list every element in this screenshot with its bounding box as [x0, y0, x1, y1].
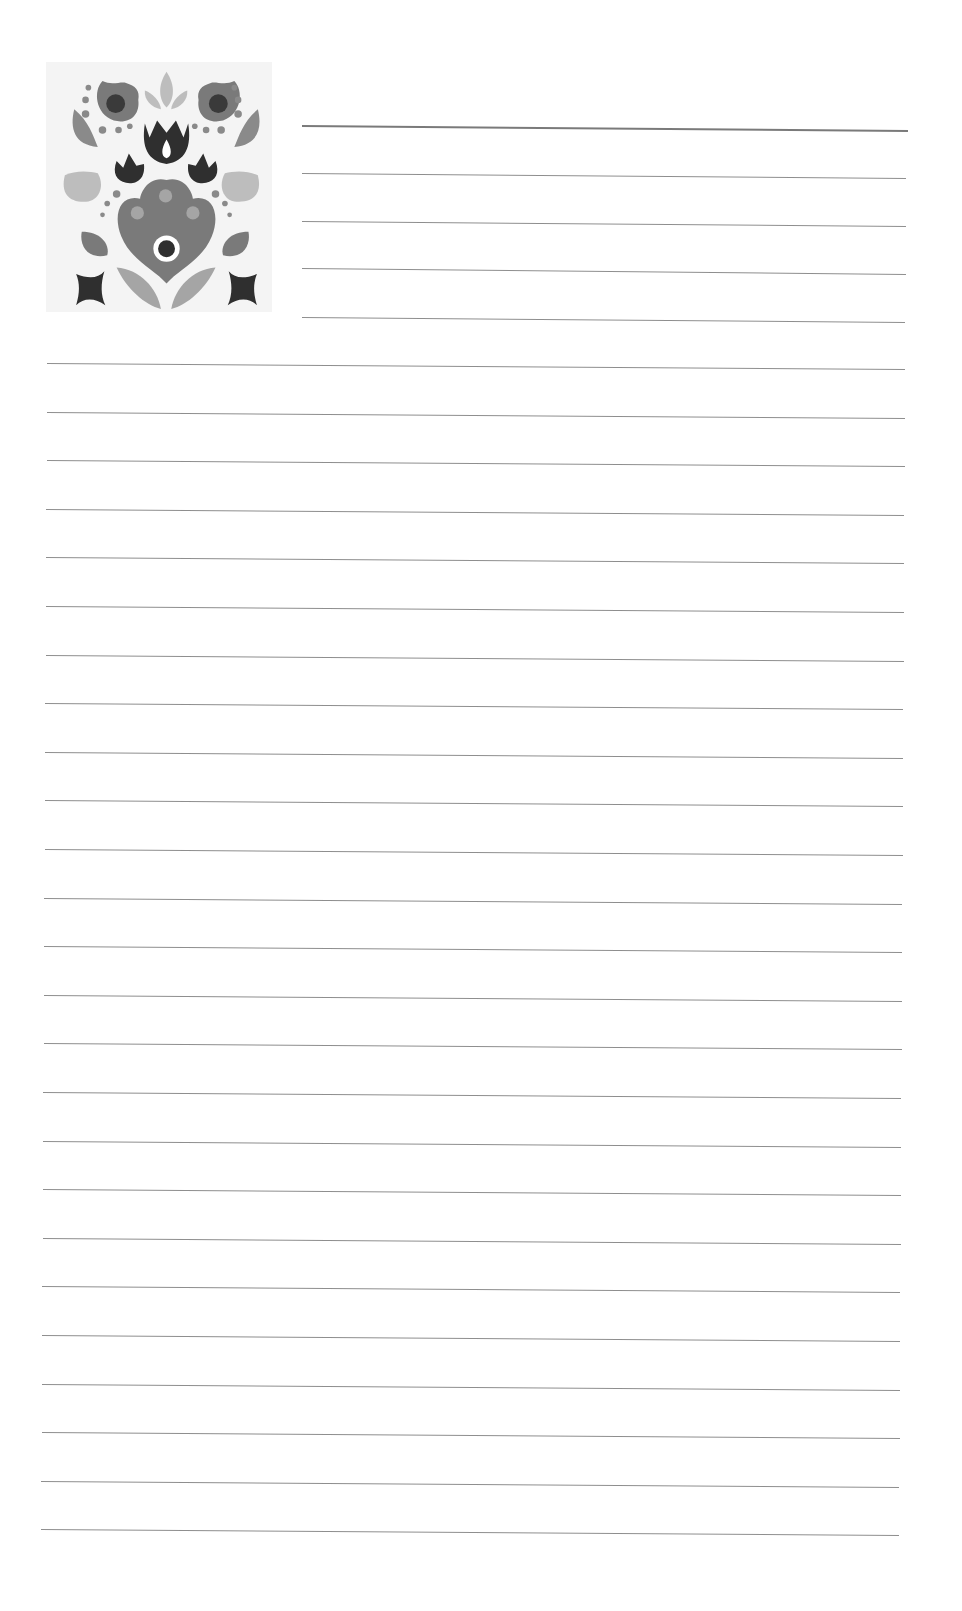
body-rule-line [47, 363, 905, 370]
header-rule-line [302, 268, 906, 275]
header-rule-line [302, 173, 906, 179]
header-rule-line [302, 221, 906, 227]
folk-floral-ornament-icon [46, 62, 272, 312]
body-rule-line [44, 995, 902, 1002]
body-rule-line [46, 460, 904, 467]
body-rule-line [42, 1384, 900, 1391]
body-rule-line [41, 1432, 899, 1439]
body-rule-line [47, 412, 905, 419]
body-rule-line [44, 849, 902, 856]
body-rule-line [45, 800, 903, 807]
body-rule-line [41, 1481, 899, 1488]
body-rule-line [46, 557, 904, 564]
header-rule-line [302, 317, 905, 323]
body-rule-line [46, 606, 904, 613]
body-rule-line [41, 1529, 899, 1536]
body-rule-line [43, 1141, 901, 1148]
body-rule-line [44, 946, 902, 953]
body-rule-line [43, 1092, 901, 1099]
body-rule-line [45, 752, 903, 759]
body-rule-line [43, 1043, 901, 1050]
body-rule-line [43, 1189, 901, 1196]
body-rule-line [42, 1335, 900, 1342]
body-rule-line [46, 509, 904, 516]
body-rule-line [42, 1238, 900, 1245]
header-rule-line [302, 125, 908, 132]
body-rule-line [42, 1286, 900, 1293]
folk-floral-ornament [46, 62, 272, 312]
body-rule-line [44, 898, 902, 905]
body-rule-line [45, 703, 903, 710]
body-rule-line [45, 655, 903, 662]
